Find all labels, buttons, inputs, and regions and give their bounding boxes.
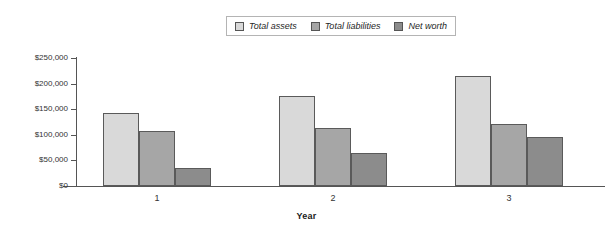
legend-label-total-assets: Total assets <box>249 21 297 31</box>
legend-swatch-total-liabilities <box>311 22 320 31</box>
legend-label-net-worth: Net worth <box>408 21 447 31</box>
bar-group <box>455 58 563 186</box>
y-axis-tick-label-wrap: $150,000 <box>0 105 68 113</box>
bar-group <box>103 58 211 186</box>
legend-swatch-total-assets <box>235 22 244 31</box>
bar <box>351 153 387 186</box>
y-axis-tick-label-wrap: $200,000 <box>0 80 68 88</box>
legend-item-total-assets: Total assets <box>235 21 297 31</box>
bar-chart: Total assets Total liabilities Net worth… <box>0 0 613 233</box>
y-axis-tick-label-wrap: $0 <box>0 182 68 190</box>
y-axis-tick-label: $200,000 <box>35 80 68 88</box>
x-axis-title: Year <box>0 211 613 221</box>
chart-legend: Total assets Total liabilities Net worth <box>226 16 456 36</box>
bar <box>491 124 527 186</box>
y-axis-tick-label-wrap: $50,000 <box>0 156 68 164</box>
y-axis-tick-label-wrap: $100,000 <box>0 131 68 139</box>
bar <box>103 113 139 186</box>
y-axis-tick-label: $0 <box>59 182 68 190</box>
legend-label-total-liabilities: Total liabilities <box>325 21 381 31</box>
y-axis-tick <box>71 186 77 187</box>
x-axis-label: 3 <box>479 193 539 203</box>
y-axis-tick-label-wrap: $250,000 <box>0 54 68 62</box>
bar <box>175 168 211 186</box>
y-axis-tick-label: $100,000 <box>35 131 68 139</box>
x-axis-label: 1 <box>127 193 187 203</box>
y-axis-tick-label: $250,000 <box>35 54 68 62</box>
x-axis-line <box>63 186 605 187</box>
legend-item-net-worth: Net worth <box>394 21 447 31</box>
bar <box>455 76 491 186</box>
bar <box>279 96 315 186</box>
x-axis-label: 2 <box>303 193 363 203</box>
y-axis-tick-label: $150,000 <box>35 105 68 113</box>
bar <box>527 137 563 186</box>
bar <box>139 131 175 186</box>
y-axis-tick-label: $50,000 <box>39 156 68 164</box>
legend-swatch-net-worth <box>394 22 403 31</box>
bar <box>315 128 351 186</box>
legend-item-total-liabilities: Total liabilities <box>311 21 381 31</box>
plot-area <box>77 58 605 186</box>
bar-group <box>279 58 387 186</box>
